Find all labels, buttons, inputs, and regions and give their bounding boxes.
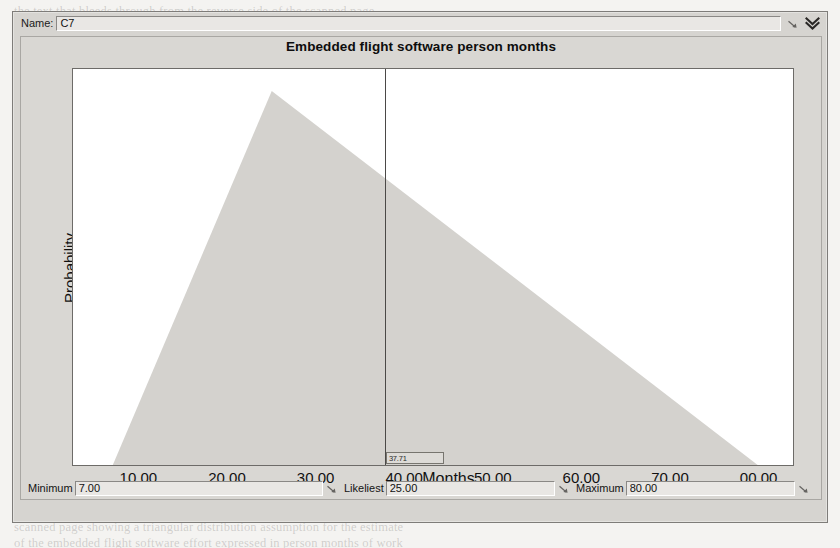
name-label: Name: [21, 17, 53, 29]
name-bar: Name: [13, 12, 827, 34]
likeliest-input[interactable] [386, 481, 555, 496]
distribution-plot[interactable]: 37.71 [72, 68, 794, 466]
parameter-group-maximum: Maximum [576, 480, 816, 496]
chart-title: Embedded flight software person months [21, 39, 821, 54]
maximum-input[interactable] [626, 481, 795, 496]
triangular-distribution-shape [73, 69, 793, 465]
name-input[interactable] [56, 16, 781, 31]
assumption-dialog-window: Name: Embedded flight software person mo… [12, 11, 828, 523]
certainty-marker-line[interactable] [385, 69, 386, 465]
minimum-label: Minimum [28, 482, 73, 494]
parameter-bar: Minimum Likeliest [21, 477, 821, 499]
chart-panel: Embedded flight software person months P… [20, 36, 822, 500]
likeliest-resize-grip-icon[interactable] [558, 482, 571, 495]
marker-value-field[interactable]: 37.71 [386, 452, 444, 464]
resize-grip-icon[interactable] [787, 17, 800, 30]
minimum-input[interactable] [75, 481, 323, 496]
maximum-resize-grip-icon[interactable] [798, 482, 811, 495]
likeliest-label: Likeliest [344, 482, 384, 494]
double-chevron-down-icon[interactable] [804, 15, 821, 32]
minimum-resize-grip-icon[interactable] [326, 482, 339, 495]
parameter-group-minimum: Minimum [28, 480, 344, 496]
parameter-group-likeliest: Likeliest [344, 480, 576, 496]
page-bleed-line2: of the embedded flight software effort e… [14, 536, 826, 548]
maximum-label: Maximum [576, 482, 624, 494]
